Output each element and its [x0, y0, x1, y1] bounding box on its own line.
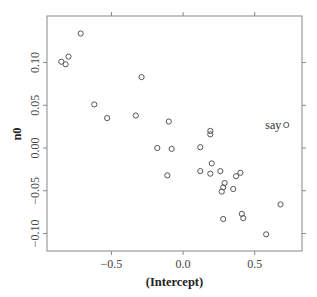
data-point	[231, 186, 236, 191]
point-label: say	[265, 118, 281, 132]
data-point	[264, 232, 269, 237]
y-tick-label: −0.05	[28, 177, 42, 205]
y-axis: −0.10−0.050.000.050.10	[28, 52, 306, 247]
data-point	[284, 122, 289, 127]
data-point	[63, 62, 68, 67]
data-point	[198, 145, 203, 150]
data-point	[165, 173, 170, 178]
data-point	[208, 171, 213, 176]
data-point	[208, 132, 213, 137]
y-tick-label: 0.00	[28, 138, 42, 159]
plot-frame	[47, 16, 302, 251]
x-tick-label: −0.5	[101, 257, 123, 271]
y-tick-label: 0.10	[28, 52, 42, 73]
x-axis-title: (Intercept)	[146, 275, 203, 289]
data-point	[66, 54, 71, 59]
data-point	[238, 170, 243, 175]
data-point	[155, 145, 160, 150]
data-point	[105, 116, 110, 121]
x-axis: −0.50.00.5	[101, 12, 263, 271]
y-axis-title: n0	[10, 127, 24, 140]
scatter-plot: −0.50.00.5 −0.10−0.050.000.050.10 say (I…	[0, 0, 317, 297]
data-point	[278, 202, 283, 207]
data-point	[166, 119, 171, 124]
data-point	[169, 146, 174, 151]
data-points	[59, 31, 289, 237]
data-point	[78, 31, 83, 36]
data-point	[209, 161, 214, 166]
data-point	[218, 169, 223, 174]
data-point	[221, 216, 226, 221]
data-point	[139, 75, 144, 80]
data-point	[92, 102, 97, 107]
data-point	[198, 169, 203, 174]
data-point	[133, 113, 138, 118]
x-tick-label: 0.0	[176, 257, 191, 271]
point-annotations: say	[265, 118, 281, 132]
x-tick-label: 0.5	[247, 257, 262, 271]
y-tick-label: −0.10	[28, 220, 42, 248]
y-tick-label: 0.05	[28, 95, 42, 116]
